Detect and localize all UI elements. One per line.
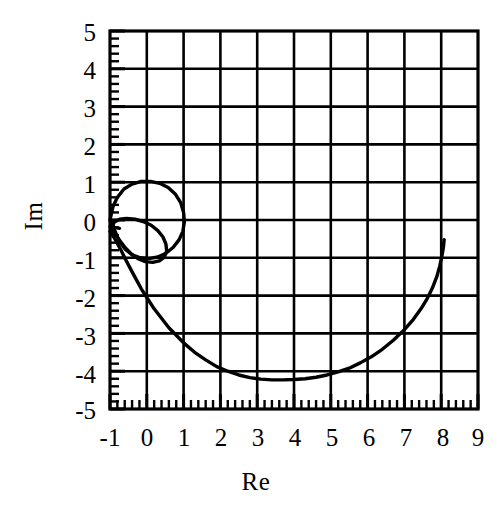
nyquist-plot-figure: Im Re 5 4 3 2 1 0 -1 -2 -3 -4 -5 -1 0 1 … [0,0,502,521]
data-curves [110,181,444,379]
plot-canvas [0,0,502,521]
curve-main-arc [110,231,444,380]
grid-lines [110,31,478,409]
